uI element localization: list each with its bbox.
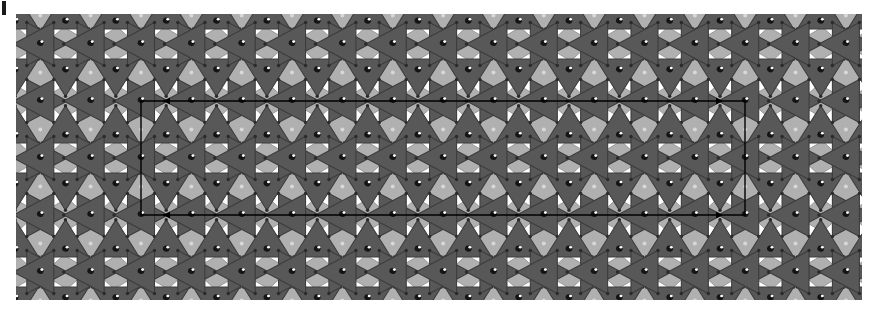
page-edge-mark <box>2 1 6 15</box>
crystal-structure-figure: Polyhedral framework projection Tiling o… <box>0 0 884 316</box>
crystal-structure-canvas <box>0 0 884 316</box>
